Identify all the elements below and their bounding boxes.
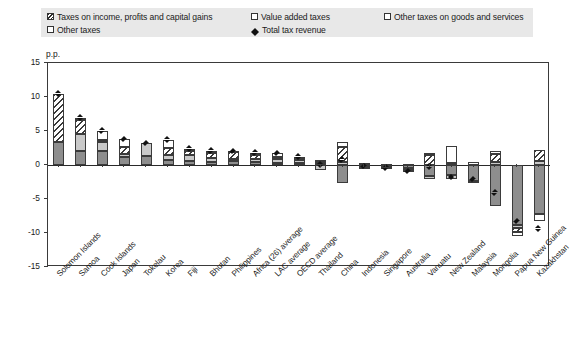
x-tick-mark bbox=[342, 164, 343, 167]
x-tick-label: Bhutan bbox=[208, 254, 232, 278]
x-tick-mark bbox=[407, 164, 408, 167]
x-tick-mark bbox=[385, 164, 386, 167]
x-tick-mark bbox=[320, 164, 321, 167]
x-tick-mark bbox=[233, 164, 234, 167]
x-tick-mark bbox=[276, 164, 277, 167]
x-tick-mark bbox=[123, 164, 124, 167]
x-tick-mark bbox=[473, 164, 474, 167]
x-tick-mark bbox=[80, 164, 81, 167]
x-tick-mark bbox=[145, 164, 146, 167]
x-tick-mark bbox=[298, 164, 299, 167]
x-tick-mark bbox=[538, 164, 539, 167]
x-tick-mark bbox=[167, 164, 168, 167]
x-axis: Solomon IslandsSamoaCook IslandsJapanTok… bbox=[0, 0, 576, 346]
chart-figure: Taxes on income, profits and capital gai… bbox=[0, 0, 576, 346]
x-tick-label: Tokelau bbox=[142, 253, 168, 279]
x-tick-mark bbox=[58, 164, 59, 167]
x-tick-mark bbox=[494, 164, 495, 167]
x-tick-label: Korea bbox=[164, 257, 185, 278]
x-tick-mark bbox=[451, 164, 452, 167]
x-tick-label: China bbox=[339, 257, 360, 278]
x-tick-mark bbox=[211, 164, 212, 167]
x-tick-mark bbox=[102, 164, 103, 167]
x-tick-mark bbox=[363, 164, 364, 167]
x-tick-mark bbox=[254, 164, 255, 167]
x-tick-label: Fiji bbox=[186, 265, 199, 278]
x-tick-mark bbox=[189, 164, 190, 167]
x-tick-mark bbox=[429, 164, 430, 167]
x-tick-mark bbox=[516, 164, 517, 167]
